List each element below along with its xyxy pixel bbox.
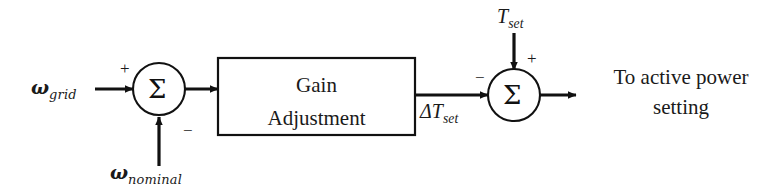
output-line-2: setting [598, 92, 764, 122]
output-line-1: To active power [598, 62, 764, 92]
tset-symbol: T [497, 5, 508, 27]
output-destination-label: To active power setting [598, 62, 764, 123]
gain-adjustment-line-1: Gain [218, 69, 415, 102]
omega-grid-subscript: grid [49, 87, 77, 102]
sum2-minus-sign: − [475, 69, 485, 86]
delta-tset-subscript: set [443, 111, 459, 126]
block-diagram: ωgrid + − Σ ωnominal Gain Adjustment ΔTs… [0, 0, 772, 195]
omega-nominal-subscript: nominal [128, 172, 182, 187]
gain-adjustment-line-2: Adjustment [218, 102, 415, 135]
sum1-minus-sign: − [183, 122, 193, 139]
sum1-sigma-glyph: Σ [148, 76, 166, 102]
omega-grid-symbol: ω [31, 76, 49, 98]
sum1-plus-sign: + [120, 60, 130, 77]
tset-subscript: set [508, 16, 524, 31]
delta-tset-symbol: ΔT [420, 100, 443, 122]
sum2-plus-sign: + [527, 50, 537, 67]
tset-label: Tset [497, 6, 524, 31]
omega-grid-label: ωgrid [31, 78, 77, 101]
sum2-sigma-glyph: Σ [503, 82, 521, 108]
omega-nominal-label: ωnominal [110, 163, 182, 186]
gain-adjustment-block-label: Gain Adjustment [218, 69, 415, 134]
delta-tset-label: ΔTset [420, 101, 459, 126]
omega-nominal-symbol: ω [110, 161, 128, 183]
